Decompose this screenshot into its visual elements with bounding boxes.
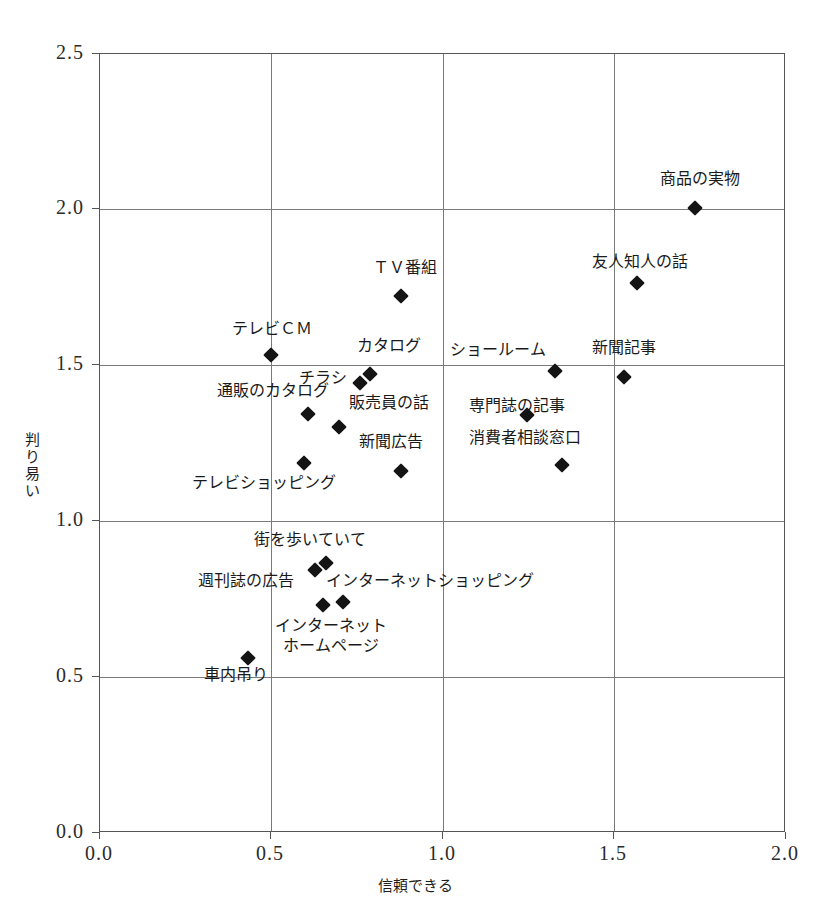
xtick-label-1.0: 1.0 (407, 842, 477, 865)
tick-y-2.5 (92, 53, 99, 54)
tick-y-1.0 (92, 520, 99, 521)
ytick-label-1.0: 1.0 (14, 508, 84, 531)
y-axis-title-char-0: 判 (22, 432, 42, 449)
point-label-senmonshi: 専門誌の記事 (469, 397, 565, 415)
point-label-machi: 街を歩いていて (254, 531, 366, 549)
point-label-shouhin: 商品の実物 (660, 170, 740, 188)
point-label-shouhisha: 消費者相談窓口 (469, 429, 581, 447)
point-label-hanbaiin: 販売員の話 (349, 394, 429, 412)
gridline-y-2.0 (100, 209, 784, 210)
point-label-terebi-cm: テレビＣＭ (232, 320, 312, 338)
x-axis-title: 信頼できる (0, 874, 830, 895)
gridline-x-0.5 (271, 54, 272, 831)
point-label-catalog: カタログ (357, 337, 421, 355)
y-axis-title-char-1: り (22, 449, 42, 466)
tick-x-0.0 (99, 832, 100, 839)
gridline-x-1.5 (614, 54, 615, 831)
point-label-internet-hp-line2: ホームページ (283, 637, 379, 655)
y-axis-title-char-2: 易 (22, 466, 42, 483)
point-label-internet-hp-line1: インターネット (275, 617, 387, 635)
tick-x-1.5 (613, 832, 614, 839)
y-axis-title: 判 り 易 い (22, 432, 42, 500)
gridline-y-1.5 (100, 365, 784, 366)
ytick-label-1.5: 1.5 (14, 352, 84, 375)
gridline-y-0.5 (100, 677, 784, 678)
ytick-label-2.5: 2.5 (14, 41, 84, 64)
point-label-showroom: ショールーム (450, 341, 546, 359)
point-label-internet-shopping: インターネットショッピング (326, 572, 534, 590)
xtick-label-1.5: 1.5 (578, 842, 648, 865)
point-label-shinbun-kiji: 新聞記事 (592, 339, 656, 357)
point-label-shanai: 車内吊り (204, 666, 268, 684)
gridline-x-1.0 (443, 54, 444, 831)
ytick-label-2.0: 2.0 (14, 196, 84, 219)
scatter-plot-figure: 0.0 0.5 1.0 1.5 2.0 2.5 2.0 1.5 1.0 0.5 … (0, 0, 830, 917)
ytick-label-0.0: 0.0 (14, 820, 84, 843)
xtick-label-0.5: 0.5 (235, 842, 305, 865)
tick-x-2.0 (785, 832, 786, 839)
point-label-tv-bangumi: ＴＶ番組 (373, 259, 437, 277)
tick-y-0.0 (92, 832, 99, 833)
point-label-shinbun-koukoku: 新聞広告 (359, 433, 423, 451)
xtick-label-0.0: 0.0 (64, 842, 134, 865)
y-axis-title-char-3: い (22, 483, 42, 500)
gridline-y-1.0 (100, 521, 784, 522)
point-label-tsuuhan-catalog: 通販のカタログ (217, 382, 329, 400)
tick-x-1.0 (442, 832, 443, 839)
xtick-label-2.0: 2.0 (750, 842, 820, 865)
tick-y-1.5 (92, 364, 99, 365)
point-label-yuujin: 友人知人の話 (592, 253, 688, 271)
ytick-label-0.5: 0.5 (14, 664, 84, 687)
tick-y-2.0 (92, 208, 99, 209)
point-label-shuukanshi: 週刊誌の広告 (198, 572, 294, 590)
tick-y-0.5 (92, 676, 99, 677)
tick-x-0.5 (270, 832, 271, 839)
point-label-terebi-shopping: テレビショッピング (192, 474, 336, 492)
